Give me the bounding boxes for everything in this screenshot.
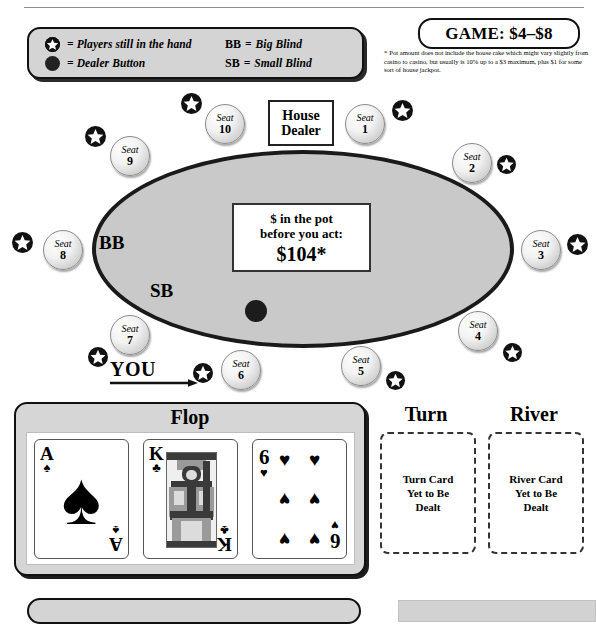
card-six-of-hearts: 6 ♥ 6 ♥ ♥♥♥♥♥♥ (252, 439, 347, 559)
legend-row-players: = Players still in the hand (45, 36, 192, 52)
footnote-marker: * (384, 49, 387, 56)
seat-1-number: 1 (362, 123, 368, 135)
top-divider (24, 7, 584, 8)
seat-2[interactable]: Seat2 (452, 143, 492, 183)
turn-column: Turn Turn Card Yet to Be Dealt (376, 403, 476, 554)
king-top-left-index: K ♣ (149, 444, 164, 473)
player-star-seat-7 (88, 347, 108, 367)
dealer-button-icon (45, 56, 60, 71)
seat-5-number: 5 (358, 365, 364, 377)
player-star-seat-3 (567, 234, 588, 255)
turn-placeholder-line1: Turn Card (403, 472, 454, 486)
river-placeholder-line2: Yet to Be (509, 486, 562, 500)
seat-5[interactable]: Seat5 (341, 346, 381, 386)
small-blind-marker: SB (150, 280, 173, 302)
turn-title: Turn (376, 403, 476, 426)
legend-sb-equals: = (244, 57, 251, 69)
seat-4-number: 4 (475, 330, 481, 342)
flop-cards-row: A ♠ A ♠ ♠ K ♣ K ♣ (26, 432, 355, 565)
legend-bb-abbr: BB (225, 37, 241, 52)
seat-1[interactable]: Seat1 (345, 104, 385, 144)
seat-10[interactable]: Seat10 (205, 104, 245, 144)
big-blind-marker: BB (99, 232, 124, 254)
six-pip-3: ♥ (279, 490, 290, 509)
player-star-seat-8 (12, 232, 33, 253)
card-king-of-clubs: K ♣ K ♣ (143, 439, 238, 559)
six-pip-2: ♥ (309, 450, 320, 469)
next-panel-top-edge-right (398, 600, 596, 622)
game-stakes-label: GAME: $4–$8 (445, 24, 553, 44)
house-dealer-line1: House (282, 108, 319, 123)
ace-center-pip: ♠ (35, 440, 128, 558)
player-star-seat-1 (392, 100, 413, 121)
six-pip-6: ♥ (309, 530, 320, 549)
legend-row-dealer: = Dealer Button (45, 55, 145, 71)
seat-4[interactable]: Seat4 (458, 311, 498, 351)
king-face-illustration (166, 452, 217, 548)
pot-amount-box: $ in the pot before you act: $104* (232, 203, 371, 272)
six-pip-4: ♥ (309, 490, 320, 509)
turn-placeholder-line2: Yet to Be (403, 486, 454, 500)
six-pip-1: ♥ (279, 450, 290, 469)
ace-big-spade-icon: ♠ (62, 469, 101, 529)
footnote-text: Pot amount does not include the house ra… (384, 49, 588, 73)
legend-row-sb: SB = Small Blind (225, 55, 312, 71)
seat-9-number: 9 (127, 155, 133, 167)
seat-10-number: 10 (219, 123, 231, 135)
seat-6[interactable]: Seat6 (221, 350, 261, 390)
river-placeholder-line1: River Card (509, 472, 562, 486)
next-panel-top-edge-left (27, 598, 361, 624)
king-suit-br: ♣ (220, 525, 229, 536)
turn-card-placeholder: Turn Card Yet to Be Dealt (380, 432, 476, 554)
legend-bb-label: Big Blind (256, 38, 303, 50)
seat-7-number: 7 (127, 334, 133, 346)
house-dealer-line2: Dealer (281, 123, 321, 138)
legend-bb-equals: = (245, 38, 252, 50)
seat-3-number: 3 (538, 249, 544, 261)
player-star-seat-10 (181, 93, 202, 114)
flop-panel: Flop A ♠ A ♠ ♠ K ♣ (14, 402, 366, 576)
pot-rake-footnote: *Pot amount does not include the house r… (384, 49, 590, 75)
seat-2-number: 2 (469, 162, 475, 174)
turn-placeholder-text: Turn Card Yet to Be Dealt (403, 472, 454, 514)
you-label: YOU (110, 358, 156, 381)
legend-players-label: = Players still in the hand (67, 38, 192, 50)
dealer-button (245, 300, 267, 322)
legend-box: = Players still in the hand = Dealer But… (27, 27, 364, 79)
river-column: River River Card Yet to Be Dealt (484, 403, 584, 554)
you-arrow-icon (110, 379, 198, 388)
legend-dealer-label: = Dealer Button (67, 57, 145, 69)
pot-amount-value: $104* (277, 243, 327, 265)
seat-6-number: 6 (238, 369, 244, 381)
seat-9[interactable]: Seat9 (110, 136, 150, 176)
house-dealer-box: House Dealer (268, 100, 334, 146)
river-placeholder-text: River Card Yet to Be Dealt (509, 472, 562, 514)
six-pip-5: ♥ (279, 530, 290, 549)
player-star-seat-9 (85, 126, 106, 147)
king-suit-tl: ♣ (152, 462, 161, 473)
seat-3[interactable]: Seat3 (521, 230, 561, 270)
six-suit-tl: ♥ (260, 467, 268, 479)
player-star-seat-4 (503, 343, 522, 362)
you-indicator: YOU (110, 358, 156, 381)
legend-sb-label: Small Blind (254, 57, 312, 69)
river-card-placeholder: River Card Yet to Be Dealt (488, 432, 584, 554)
river-placeholder-line3: Dealt (509, 500, 562, 514)
six-rank-tl: 6 (259, 448, 270, 467)
pot-label-line2: before you act: (260, 226, 343, 241)
legend-sb-abbr: SB (225, 56, 240, 71)
card-ace-of-spades: A ♠ A ♠ ♠ (34, 439, 129, 559)
legend-row-bb: BB = Big Blind (225, 36, 302, 52)
seat-7[interactable]: Seat7 (110, 315, 150, 355)
player-star-icon (45, 37, 60, 52)
seat-8[interactable]: Seat8 (43, 230, 83, 270)
six-pip-grid: ♥♥♥♥♥♥ (279, 450, 335, 550)
seat-8-number: 8 (60, 249, 66, 261)
player-star-seat-5 (386, 371, 405, 390)
turn-placeholder-line3: Dealt (403, 500, 454, 514)
flop-title: Flop (16, 404, 364, 430)
game-stakes-badge: GAME: $4–$8 (418, 18, 580, 49)
king-bottom-right-index: K ♣ (217, 525, 232, 554)
player-star-seat-2 (497, 155, 516, 174)
